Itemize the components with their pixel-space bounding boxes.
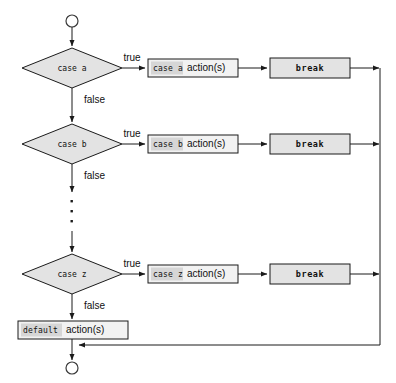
switch-flowchart-svg: case a true case a action(s) break false… bbox=[0, 0, 396, 383]
action-rest-case-b: action(s) bbox=[187, 138, 225, 149]
ellipsis-dot-3 bbox=[71, 220, 73, 222]
edge-label-case-a-true: true bbox=[123, 52, 141, 63]
edge-label-case-z-false: false bbox=[84, 300, 106, 311]
end-terminator bbox=[66, 362, 78, 374]
break-label-case-a: break bbox=[296, 63, 325, 73]
edge-label-case-a-false: false bbox=[84, 94, 106, 105]
ellipsis-dot-2 bbox=[71, 210, 73, 212]
edge-label-case-b-false: false bbox=[84, 170, 106, 181]
break-label-case-z: break bbox=[296, 269, 325, 279]
decision-case-z-label: case z bbox=[58, 270, 87, 279]
action-keyword-case-a: case a bbox=[153, 64, 183, 73]
ellipsis-dot-1 bbox=[71, 200, 73, 202]
ellipsis-group bbox=[71, 200, 73, 222]
default-rest: action(s) bbox=[66, 324, 104, 335]
action-keyword-case-z: case z bbox=[153, 270, 183, 279]
default-keyword: default bbox=[23, 326, 58, 335]
edge-break-return-bus bbox=[79, 68, 380, 345]
decision-case-b-label: case b bbox=[58, 140, 87, 149]
edge-label-case-b-true: true bbox=[123, 128, 141, 139]
action-keyword-case-b: case b bbox=[153, 140, 183, 149]
decision-case-a-label: case a bbox=[58, 64, 87, 73]
action-rest-case-z: action(s) bbox=[187, 268, 225, 279]
break-label-case-b: break bbox=[296, 139, 325, 149]
action-rest-case-a: action(s) bbox=[187, 62, 225, 73]
flowchart-canvas: case a true case a action(s) break false… bbox=[0, 0, 396, 383]
start-terminator bbox=[66, 15, 78, 27]
edge-label-case-z-true: true bbox=[123, 258, 141, 269]
